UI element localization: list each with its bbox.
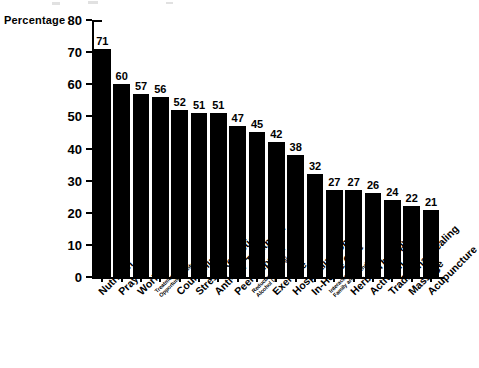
y-axis-title: Percentage	[4, 14, 65, 26]
bar-slot[interactable]: 56	[152, 20, 171, 277]
y-axis-tick	[86, 148, 92, 150]
bar-slot[interactable]: 32	[307, 20, 326, 277]
bar-slot[interactable]: 57	[133, 20, 152, 277]
bar-slot[interactable]: 51	[210, 20, 229, 277]
y-axis-tick	[86, 115, 92, 117]
bar[interactable]	[171, 110, 188, 277]
y-axis-tick	[86, 244, 92, 246]
bar-slot[interactable]: 52	[171, 20, 190, 277]
bar-slot[interactable]: 71	[94, 20, 113, 277]
bar-value-label: 51	[212, 99, 224, 111]
y-axis-tick	[86, 51, 92, 53]
scan-artifact	[88, 1, 98, 4]
bar-value-label: 45	[251, 118, 263, 130]
scan-artifact	[166, 2, 173, 4]
bar-slot[interactable]: 38	[287, 20, 306, 277]
bar-value-label: 26	[367, 179, 379, 191]
bar[interactable]	[152, 97, 169, 277]
bar-slot[interactable]: 51	[191, 20, 210, 277]
y-axis-tick-label: 70	[68, 45, 82, 60]
y-axis-tick	[86, 212, 92, 214]
y-axis-tick-label: 30	[68, 173, 82, 188]
bar-value-label: 42	[270, 128, 282, 140]
bar-value-label: 27	[328, 176, 340, 188]
bar-value-label: 24	[386, 186, 398, 198]
bar-value-label: 57	[135, 80, 147, 92]
y-axis-tick-label: 0	[75, 270, 82, 285]
y-axis-tick	[86, 180, 92, 182]
bar-value-label: 27	[348, 176, 360, 188]
bar-slot[interactable]: 26	[365, 20, 384, 277]
bar-value-label: 71	[96, 35, 108, 47]
bar-value-label: 21	[425, 196, 437, 208]
bar-value-label: 47	[232, 112, 244, 124]
bar-value-label: 52	[174, 96, 186, 108]
y-axis-tick-label: 20	[68, 205, 82, 220]
bar-value-label: 51	[193, 99, 205, 111]
scan-artifact	[52, 2, 60, 5]
bar-value-label: 38	[290, 141, 302, 153]
y-axis-tick-label: 10	[68, 237, 82, 252]
bar[interactable]	[113, 84, 130, 277]
y-axis-tick-label: 80	[68, 13, 82, 28]
y-axis-tick-label: 50	[68, 109, 82, 124]
bar[interactable]	[133, 94, 150, 277]
bar-value-label: 32	[309, 160, 321, 172]
bar-slot[interactable]: 27	[345, 20, 364, 277]
y-axis-tick	[86, 276, 92, 278]
bar-value-label: 22	[406, 192, 418, 204]
y-axis-tick	[86, 83, 92, 85]
bar-value-label: 56	[154, 83, 166, 95]
y-axis-tick	[86, 19, 92, 21]
y-axis-tick-label: 40	[68, 141, 82, 156]
y-axis-tick-label: 60	[68, 77, 82, 92]
bar[interactable]	[94, 49, 111, 277]
bar-slot[interactable]: 60	[113, 20, 132, 277]
bar-value-label: 60	[116, 70, 128, 82]
